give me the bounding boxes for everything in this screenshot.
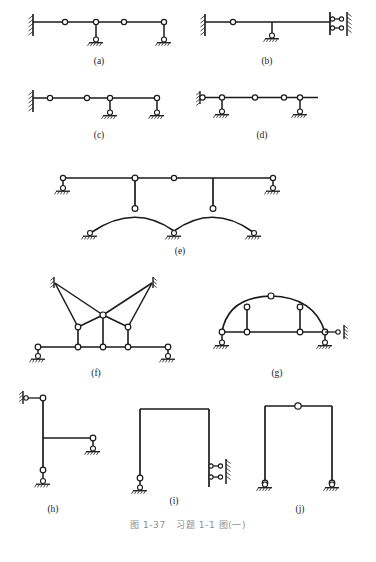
panel-c: (c)	[29, 90, 165, 141]
panel-label-e: (e)	[175, 246, 186, 257]
panel-label-i: (i)	[170, 496, 179, 507]
panel-label-g: (g)	[271, 368, 282, 379]
panel-label-c: (c)	[94, 130, 105, 141]
panel-b: (b)	[201, 12, 352, 67]
panel-label-a: (a)	[94, 56, 105, 67]
panel-label-d: (d)	[256, 130, 267, 141]
panel-label-h: (h)	[47, 504, 58, 515]
panel-d: (d)	[196, 91, 318, 141]
figure-caption: 图 1-37 习题 1-1 图(一)	[0, 518, 376, 531]
structural-diagram-svg: (a) (b) (c)	[0, 0, 376, 562]
panel-a: (a)	[29, 14, 172, 67]
panel-label-f: (f)	[91, 368, 101, 379]
figure-sheet: (a) (b) (c)	[0, 0, 376, 562]
panel-label-j: (j)	[296, 504, 305, 515]
panel-i: (i)	[132, 409, 231, 507]
panel-e: (e)	[55, 175, 281, 257]
panel-j: (j)	[257, 403, 340, 515]
panel-label-b: (b)	[261, 56, 272, 67]
panel-g: (g)	[214, 293, 348, 379]
panel-f: (f)	[30, 277, 176, 379]
panel-h: (h)	[19, 391, 100, 515]
